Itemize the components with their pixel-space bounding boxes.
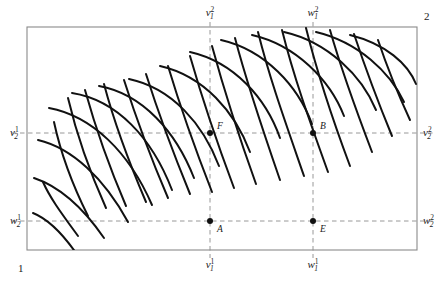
point-B-dot xyxy=(310,130,316,136)
edgeworth-box-figure: FBAE v21w21v11w11v12w12v22w2212 xyxy=(0,0,445,289)
origin-agent-1: 1 xyxy=(18,262,24,274)
point-E-label: E xyxy=(319,224,326,234)
point-E-dot xyxy=(310,218,316,224)
origin-agent-2: 2 xyxy=(424,10,430,22)
point-A-dot xyxy=(207,218,213,224)
point-B-label: B xyxy=(320,121,326,131)
point-F-dot xyxy=(207,130,213,136)
point-A-label: A xyxy=(216,224,223,234)
point-F-label: F xyxy=(216,121,223,131)
diagram-canvas: FBAE v21w21v11w11v12w12v22w2212 xyxy=(0,0,445,289)
